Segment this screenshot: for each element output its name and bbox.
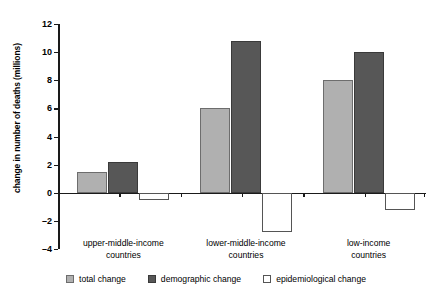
legend-item[interactable]: epidemiological change [263, 274, 366, 284]
legend-label: total change [79, 274, 126, 284]
category-label: upper-middle-income countries [53, 238, 193, 261]
y-tick-mark [54, 137, 58, 138]
bar-epidemiological [139, 193, 169, 200]
bar-total [77, 172, 107, 193]
x-minor-tick [365, 193, 366, 197]
legend-swatch-icon [148, 275, 156, 283]
legend-swatch-icon [263, 275, 271, 283]
legend-item[interactable]: demographic change [148, 274, 241, 284]
y-tick-mark [54, 24, 58, 25]
x-minor-tick [119, 193, 120, 197]
bar-demographic [231, 41, 261, 193]
y-tick-label: –2 [42, 216, 52, 226]
bar-total [323, 80, 353, 193]
y-tick-mark [54, 165, 58, 166]
y-tick-label: 2 [47, 160, 52, 170]
bar-epidemiological [385, 193, 415, 210]
y-axis-line [58, 24, 60, 249]
x-minor-tick [242, 193, 243, 197]
y-tick-label: 8 [47, 75, 52, 85]
legend-swatch-icon [66, 275, 74, 283]
bar-chart: change in number of deaths (millions) 12… [0, 0, 432, 297]
y-tick-mark [54, 193, 58, 194]
category-label: low-income countries [299, 238, 432, 261]
category-label: lower-middle-income countries [176, 238, 316, 261]
plot-area: 121086420–2–4 [58, 24, 426, 249]
y-axis-title: change in number of deaths (millions) [12, 18, 22, 218]
x-minor-tick [181, 193, 182, 197]
y-tick-label: 0 [47, 188, 52, 198]
legend-item[interactable]: total change [66, 274, 126, 284]
legend-label: demographic change [161, 274, 241, 284]
bar-demographic [108, 162, 138, 193]
y-tick-label: 4 [47, 132, 52, 142]
y-tick-label: 10 [42, 47, 52, 57]
y-tick-mark [54, 108, 58, 109]
y-tick-label: 6 [47, 103, 52, 113]
x-minor-tick [424, 193, 425, 197]
legend-label: epidemiological change [276, 274, 366, 284]
y-tick-mark [54, 52, 58, 53]
bar-demographic [354, 52, 384, 193]
y-tick-mark [54, 221, 58, 222]
y-tick-mark [54, 80, 58, 81]
x-minor-tick [303, 193, 304, 197]
bar-epidemiological [262, 193, 292, 232]
chart-legend: total changedemographic changeepidemiolo… [0, 274, 432, 284]
y-tick-label: 12 [42, 19, 52, 29]
bar-total [200, 108, 230, 192]
y-tick-label: –4 [42, 244, 52, 254]
